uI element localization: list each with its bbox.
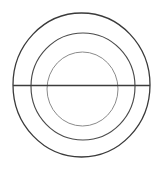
diagram-background [0,0,162,174]
figure-canvas: Concentric circles with horizontal diame… [0,0,162,174]
concentric-circles-diagram: Concentric circles with horizontal diame… [0,0,162,174]
